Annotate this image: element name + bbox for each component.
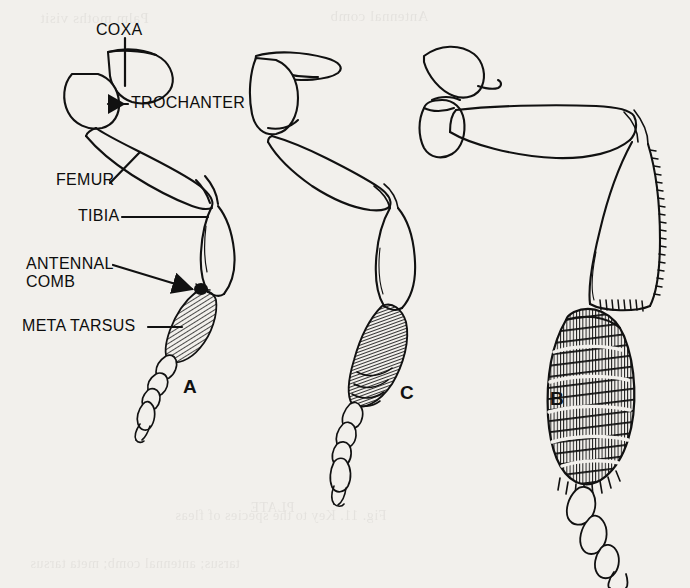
specimen-b	[420, 47, 667, 588]
annotation-label-trochanter: TROCHANTER	[131, 95, 245, 112]
leader-antennal-comb	[113, 265, 192, 289]
annotation-label-femur: FEMUR	[56, 172, 114, 189]
annotation-label-tibia: TIBIA	[78, 208, 120, 225]
figure-plate: Palm moths visitAntennal combPLATEFig. 1…	[0, 0, 690, 588]
specimen-letter-c: C	[400, 382, 414, 404]
specimen-letter-a: A	[183, 376, 197, 398]
annotation-label-meta-tarsus: META TARSUS	[22, 318, 136, 335]
leg-illustrations	[0, 0, 690, 588]
specimen-c	[250, 52, 415, 506]
annotation-label-coxa: COXA	[96, 22, 143, 39]
annotation-label-antennal-comb: ANTENNAL	[26, 256, 114, 273]
annotation-label-antennal-comb-line2: COMB	[26, 274, 75, 291]
specimen-letter-b: B	[550, 388, 564, 410]
